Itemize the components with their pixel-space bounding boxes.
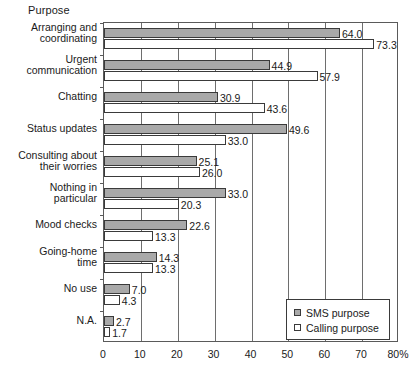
- bar-value-label: 33.0: [228, 189, 248, 199]
- plot-area: 64.073.344.957.930.943.649.633.025.126.0…: [103, 22, 398, 342]
- bar-value-label: 64.0: [342, 29, 362, 39]
- bar-value-label: 57.9: [320, 72, 340, 82]
- bar-value-label: 44.9: [272, 61, 292, 71]
- legend-item-sms: SMS purpose: [294, 305, 389, 320]
- category-label: Chatting: [2, 91, 97, 103]
- category-label: No use: [2, 283, 97, 295]
- category-label: Consulting about their worries: [2, 150, 97, 173]
- bar-value-label: 26.0: [202, 168, 222, 178]
- category-row: 22.613.3: [104, 215, 397, 247]
- legend-item-calling: Calling purpose: [294, 320, 389, 335]
- category-label: N.A.: [2, 315, 97, 327]
- axis-tick-icon: [100, 23, 104, 24]
- bar-value-label: 13.3: [155, 264, 175, 274]
- axis-tick-icon: [100, 215, 104, 216]
- bar-value-label: 33.0: [228, 136, 248, 146]
- category-row: 30.943.6: [104, 87, 397, 119]
- xtick-label-30: 30: [208, 348, 220, 360]
- bar-sms: [104, 220, 187, 230]
- bar-calling: [104, 199, 179, 209]
- bar-sms: [104, 156, 197, 166]
- axis-tick-icon: [100, 151, 104, 152]
- bar-value-label: 7.0: [132, 285, 147, 295]
- bar-calling: [104, 39, 374, 49]
- legend-swatch-sms-icon: [294, 309, 301, 316]
- purpose-bar-chart: Purpose 64.073.344.957.930.943.649.633.0…: [0, 0, 414, 387]
- category-row: 33.020.3: [104, 183, 397, 215]
- category-label: Going-home time: [2, 246, 97, 269]
- bar-value-label: 20.3: [181, 200, 201, 210]
- bar-value-label: 25.1: [199, 157, 219, 167]
- category-row: 14.313.3: [104, 247, 397, 279]
- xtick-label-20: 20: [171, 348, 183, 360]
- axis-tick-icon: [100, 247, 104, 248]
- bar-sms: [104, 28, 340, 38]
- bar-sms: [104, 316, 114, 326]
- bar-calling: [104, 231, 153, 241]
- legend-label-calling: Calling purpose: [306, 322, 379, 334]
- bar-sms: [104, 92, 218, 102]
- category-label: Mood checks: [2, 219, 97, 231]
- axis-tick-icon: [100, 183, 104, 184]
- bar-calling: [104, 135, 226, 145]
- bar-sms: [104, 284, 130, 294]
- category-label: Nothing in particular: [2, 182, 97, 205]
- bar-calling: [104, 263, 153, 273]
- xtick-label-0: 0: [100, 348, 106, 360]
- xtick-label-50: 50: [282, 348, 294, 360]
- axis-tick-icon: [100, 87, 104, 88]
- bar-value-label: 43.6: [267, 104, 287, 114]
- bar-value-label: 49.6: [289, 125, 309, 135]
- bar-sms: [104, 252, 157, 262]
- category-row: 44.957.9: [104, 55, 397, 87]
- xtick-label-60: 60: [318, 348, 330, 360]
- bar-calling: [104, 103, 265, 113]
- bar-value-label: 1.7: [112, 328, 127, 338]
- bar-value-label: 13.3: [155, 232, 175, 242]
- xtick-label-40: 40: [245, 348, 257, 360]
- bar-sms: [104, 188, 226, 198]
- xtick-label-80: 80%: [387, 348, 408, 360]
- category-label: Urgent communication: [2, 54, 97, 77]
- bar-value-label: 14.3: [159, 253, 179, 263]
- axis-tick-icon: [100, 55, 104, 56]
- bar-value-label: 22.6: [189, 221, 209, 231]
- category-row: 64.073.3: [104, 23, 397, 55]
- bar-calling: [104, 71, 318, 81]
- xtick-label-10: 10: [134, 348, 146, 360]
- category-label: Status updates: [2, 123, 97, 135]
- category-label: Arranging and coordinating: [2, 22, 97, 45]
- bar-calling: [104, 295, 120, 305]
- axis-tick-icon: [100, 279, 104, 280]
- bar-sms: [104, 60, 270, 70]
- bar-sms: [104, 124, 287, 134]
- legend-swatch-calling-icon: [294, 324, 301, 331]
- bar-value-label: 2.7: [116, 317, 131, 327]
- chart-legend: SMS purpose Calling purpose: [286, 299, 390, 340]
- chart-title: Purpose: [28, 4, 70, 16]
- legend-label-sms: SMS purpose: [306, 307, 370, 319]
- axis-tick-icon: [100, 311, 104, 312]
- axis-tick-icon: [100, 119, 104, 120]
- category-row: 49.633.0: [104, 119, 397, 151]
- bar-value-label: 30.9: [220, 93, 240, 103]
- bar-value-label: 4.3: [122, 296, 137, 306]
- bar-value-label: 73.3: [376, 40, 396, 50]
- bar-calling: [104, 167, 200, 177]
- bar-calling: [104, 327, 110, 337]
- xtick-label-70: 70: [355, 348, 367, 360]
- category-row: 25.126.0: [104, 151, 397, 183]
